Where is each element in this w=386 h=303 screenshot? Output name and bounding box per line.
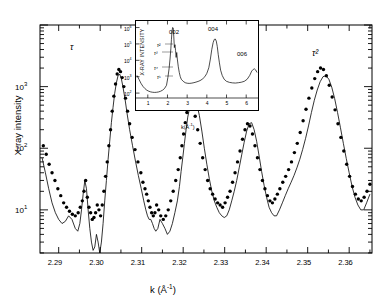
data-point	[111, 109, 114, 112]
data-point	[218, 203, 221, 206]
y-tick-label: 103	[15, 81, 27, 92]
data-point	[122, 85, 125, 88]
data-point	[266, 194, 269, 197]
data-point	[65, 206, 68, 209]
data-point	[213, 197, 216, 200]
data-point	[238, 149, 241, 152]
data-point	[276, 192, 279, 195]
data-point	[169, 199, 172, 202]
data-point	[177, 168, 180, 171]
data-point	[319, 66, 322, 69]
data-point	[145, 192, 148, 195]
x-tick-label: 2.35	[297, 258, 312, 267]
data-point	[185, 111, 188, 114]
x-tick-label: 2.30	[89, 258, 104, 267]
data-point	[223, 201, 226, 204]
data-point	[325, 74, 328, 77]
data-point	[92, 216, 95, 219]
data-point	[281, 181, 284, 184]
y-tick-label: 102	[15, 142, 27, 153]
data-point	[221, 206, 224, 209]
data-point	[143, 187, 146, 190]
data-point	[293, 151, 296, 154]
data-point	[342, 149, 345, 152]
data-point	[351, 185, 354, 188]
inset-tau-5: τ⁵	[157, 74, 161, 80]
data-point	[261, 179, 264, 182]
inset-x-tick-label: 6	[245, 100, 248, 106]
data-point	[322, 68, 325, 71]
data-point	[339, 136, 342, 139]
data-point	[357, 197, 360, 200]
data-point	[96, 203, 99, 206]
data-point	[194, 115, 197, 118]
data-point	[157, 208, 160, 211]
data-point	[107, 144, 110, 147]
data-point	[348, 175, 351, 178]
data-point	[162, 218, 165, 221]
data-point	[82, 190, 85, 193]
peak-006: 006	[237, 51, 247, 57]
data-point	[139, 171, 142, 174]
figure-root: X-ray intensity k (Å-1) 2.292.302.312.32…	[0, 0, 386, 303]
data-point	[313, 77, 316, 80]
data-point	[299, 131, 302, 134]
data-point	[241, 138, 244, 141]
inset-y-tick-label: 106	[124, 25, 132, 32]
data-point	[45, 153, 48, 156]
data-point	[208, 187, 211, 190]
data-point	[79, 206, 82, 209]
data-point	[336, 122, 339, 125]
data-point	[284, 175, 287, 178]
data-point	[128, 122, 131, 125]
data-point	[71, 213, 74, 216]
data-point	[253, 144, 256, 147]
data-point	[148, 206, 151, 209]
data-point	[301, 119, 304, 122]
data-point	[126, 109, 129, 112]
data-point	[233, 171, 236, 174]
data-point	[68, 210, 71, 213]
data-point	[56, 187, 59, 190]
inset-leader-lines	[162, 44, 173, 76]
data-point	[74, 214, 77, 217]
x-tick-label: 2.29	[48, 258, 63, 267]
data-point	[119, 70, 122, 73]
x-axis-title: k (Å-1)	[150, 283, 176, 295]
data-point	[290, 160, 293, 163]
data-point	[81, 199, 84, 202]
data-point	[368, 183, 371, 186]
data-point	[155, 203, 158, 206]
data-point	[167, 208, 170, 211]
data-point	[206, 179, 209, 182]
inset-y-tick-label: 102	[124, 90, 132, 97]
inset-tau-3: τ³	[154, 50, 158, 56]
data-point	[203, 168, 206, 171]
data-point	[296, 142, 299, 145]
data-point	[360, 199, 363, 202]
inset-x-tick-label: 1	[147, 100, 150, 106]
data-point	[198, 142, 201, 145]
data-point	[248, 124, 251, 127]
inset-panel: X-RAY INTENSITY k(Å-1) 123456 1061051041…	[135, 20, 259, 111]
inset-powder-curve	[137, 28, 257, 93]
inset-y-axis-title: X-RAY INTENSITY	[139, 13, 145, 91]
peak-004: 004	[208, 26, 218, 32]
data-point	[258, 168, 261, 171]
data-point	[256, 156, 259, 159]
data-point	[182, 132, 185, 135]
data-point	[226, 196, 229, 199]
inset-tau-2: τ²	[157, 42, 161, 48]
inset-x-axis-title: k(Å-1)	[181, 122, 195, 130]
x-tick-label: 2.32	[172, 258, 187, 267]
data-point	[94, 211, 97, 214]
data-point	[304, 108, 307, 111]
data-point	[133, 148, 136, 151]
data-point	[330, 95, 333, 98]
inset-x-tick-label: 2	[166, 100, 169, 106]
data-point	[97, 208, 100, 211]
x-tick-label: 2.31	[131, 258, 146, 267]
data-point	[106, 160, 109, 163]
data-point	[136, 160, 139, 163]
data-point	[251, 132, 254, 135]
